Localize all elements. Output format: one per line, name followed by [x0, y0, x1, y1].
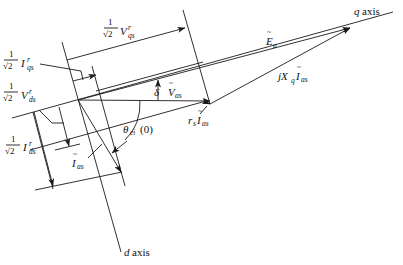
jxq-ias-phasor [210, 28, 350, 104]
d-axis-label: d axis [124, 246, 150, 258]
svg-text:r: r [128, 23, 131, 32]
svg-text:qs: qs [27, 63, 34, 72]
svg-text:~: ~ [267, 28, 271, 37]
svg-text:V: V [21, 89, 29, 101]
svg-text:~: ~ [297, 63, 301, 72]
iqs-leader [40, 64, 83, 80]
rs-ias-label: r s I as ~ [188, 107, 209, 128]
q-parallel-line-lower [30, 101, 206, 150]
svg-text:r: r [29, 139, 32, 148]
q-axis-label: q axis [354, 5, 380, 17]
svg-text:axis: axis [362, 5, 380, 17]
svg-text:jX: jX [276, 70, 289, 82]
svg-text:I: I [22, 141, 28, 153]
q-parallel-line-upper [96, 62, 203, 91]
svg-text:1: 1 [9, 49, 14, 59]
vqs-label: 1 √2 V qs r [103, 17, 135, 40]
svg-text:ds: ds [29, 95, 36, 104]
svg-text:~: ~ [73, 150, 77, 159]
svg-text:√2: √2 [3, 93, 12, 103]
vas-label: V as ~ [168, 79, 182, 100]
svg-text:I: I [20, 57, 26, 69]
q-parallel-line-ids-base [35, 172, 122, 190]
delta-label: δ [154, 86, 160, 98]
svg-text:θ: θ [123, 123, 129, 135]
svg-text:q: q [291, 76, 295, 85]
vas-phasor [78, 100, 210, 101]
svg-text:q: q [354, 5, 360, 17]
svg-text:√2: √2 [3, 61, 12, 71]
svg-text:1: 1 [108, 17, 113, 27]
ids-dimension-line [34, 112, 53, 186]
iqs-dimension-line [73, 75, 96, 81]
svg-text:as: as [202, 119, 209, 128]
svg-text:a: a [273, 41, 277, 50]
svg-text:as: as [77, 162, 84, 171]
d-parallel-line-ids-left [33, 112, 53, 189]
ea-label: E a ~ [265, 28, 277, 50]
svg-text:axis: axis [132, 246, 150, 258]
theta-ei-label: θ ei (0) [123, 123, 153, 137]
ias-leader [88, 144, 102, 158]
d-axis-line [62, 42, 121, 252]
d-parallel-line-vqs [183, 10, 210, 104]
jxq-ias-label: jX q I as ~ [276, 63, 308, 85]
svg-text:r: r [27, 55, 30, 64]
vds-label: 1 √2 V ds r [3, 81, 36, 104]
svg-text:1: 1 [11, 134, 16, 144]
svg-text:1: 1 [9, 81, 14, 91]
iqs-label: 1 √2 I qs r [3, 49, 34, 72]
ias-phasor [78, 100, 121, 172]
ea-phasor [78, 28, 350, 100]
phasor-diagram: 1 √2 V qs r 1 √2 I qs r 1 √2 V ds r 1 √2… [0, 0, 403, 265]
svg-text:as: as [301, 75, 308, 84]
svg-text:~: ~ [198, 107, 202, 116]
svg-text:~: ~ [169, 79, 173, 88]
svg-text:(0): (0) [140, 123, 153, 136]
svg-text:ei: ei [130, 128, 135, 137]
ids-label: 1 √2 I ds r [5, 134, 36, 156]
svg-text:V: V [120, 25, 128, 37]
svg-text:√2: √2 [5, 146, 14, 156]
svg-text:ds: ds [29, 147, 36, 156]
ias-label: I as ~ [71, 150, 84, 171]
svg-text:s: s [193, 119, 196, 128]
svg-text:r: r [29, 87, 32, 96]
svg-text:d: d [124, 246, 130, 258]
svg-text:qs: qs [128, 31, 135, 40]
svg-text:√2: √2 [103, 29, 112, 39]
svg-text:as: as [175, 91, 182, 100]
